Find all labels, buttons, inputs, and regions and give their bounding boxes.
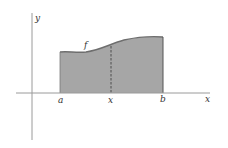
y-axis-label: y [34,13,41,23]
shaded-area [60,37,163,93]
x-axis-label: x [205,94,210,104]
label-a: a [58,95,63,105]
function-label: f [83,40,89,50]
area-under-curve-diagram: y f a x b x [0,0,228,148]
label-x-point: x [108,95,113,105]
label-b: b [160,94,166,104]
